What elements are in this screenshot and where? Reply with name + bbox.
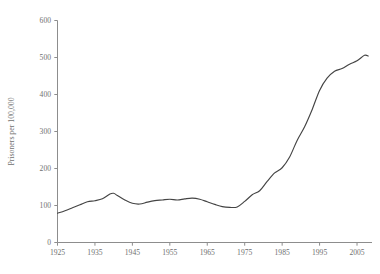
x-tick-label: 1985 bbox=[275, 248, 290, 257]
x-tick-label: 1975 bbox=[237, 248, 252, 257]
x-tick-label: 2005 bbox=[349, 248, 364, 257]
x-tick-label: 1945 bbox=[125, 248, 140, 257]
y-tick-label: 0 bbox=[47, 238, 51, 247]
y-tick-label: 200 bbox=[40, 164, 52, 173]
x-tick-label: 1925 bbox=[50, 248, 65, 257]
x-tick-label: 1995 bbox=[312, 248, 327, 257]
y-axis-title-text: Prisoners per 100,000 bbox=[7, 97, 16, 165]
data-series-group bbox=[58, 55, 369, 213]
y-tick-label: 500 bbox=[40, 53, 52, 62]
y-axis-title: Prisoners per 100,000 bbox=[7, 97, 16, 165]
x-axis: 192519351945195519651975198519952005 bbox=[50, 243, 372, 258]
y-tick-label: 300 bbox=[40, 127, 52, 136]
x-tick-label: 1965 bbox=[200, 248, 215, 257]
data-series-line bbox=[58, 55, 369, 213]
y-tick-label: 400 bbox=[40, 90, 52, 99]
chart-canvas: 0100200300400500600 19251935194519551965… bbox=[0, 0, 380, 274]
y-tick-label: 600 bbox=[40, 16, 52, 25]
x-tick-label: 1935 bbox=[87, 248, 102, 257]
y-tick-label: 100 bbox=[40, 201, 52, 210]
chart-figure: 0100200300400500600 19251935194519551965… bbox=[0, 0, 380, 274]
x-tick-label: 1955 bbox=[162, 248, 177, 257]
y-axis: 0100200300400500600 bbox=[40, 16, 58, 247]
